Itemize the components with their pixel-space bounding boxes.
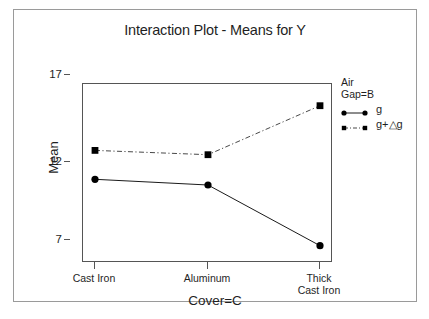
data-point-g-plus-delta-g-2 <box>317 102 324 109</box>
series-line-g <box>95 179 320 245</box>
y-tick-mark-17 <box>64 74 70 75</box>
y-tick-label-17: 17 <box>28 68 62 80</box>
plot-area <box>82 83 332 262</box>
series-line-g-plus-delta-g <box>95 106 320 155</box>
legend-item-g[interactable]: g <box>341 103 429 115</box>
x-tick-label-cast-iron-line1: Cast Iron <box>39 272 149 284</box>
figure-frame: Interaction Plot - Means for Y Mean 17 1… <box>13 9 417 302</box>
legend: Air Gap=B g g+△g <box>341 76 429 130</box>
x-tick-label-aluminum-line1: Aluminum <box>152 272 262 284</box>
page-title: Interaction Plot - Means for Y <box>14 22 416 38</box>
x-tick-label-aluminum: Aluminum <box>152 272 262 284</box>
plot-series-svg <box>83 84 333 263</box>
legend-swatch-dashed-square-icon <box>341 119 371 129</box>
data-point-g-2 <box>316 242 323 249</box>
legend-label-g: g <box>376 103 382 115</box>
legend-title-line2: Gap=B <box>341 88 429 100</box>
data-point-g-plus-delta-g-1 <box>205 151 212 158</box>
x-tick-mark-aluminum <box>207 262 208 269</box>
legend-swatch-solid-circle-icon <box>341 104 371 114</box>
x-tick-label-cast-iron: Cast Iron <box>39 272 149 284</box>
legend-label-g-plus-delta-g: g+△g <box>376 118 403 131</box>
x-tick-mark-cast-iron <box>94 262 95 269</box>
x-axis-label: Cover=C <box>14 293 416 308</box>
y-tick-label-12: 12 <box>28 155 62 167</box>
x-tick-mark-thick-cast-iron <box>319 262 320 269</box>
data-point-g-plus-delta-g-0 <box>92 147 99 154</box>
legend-title-line1: Air <box>341 76 429 88</box>
data-point-g-0 <box>91 176 98 183</box>
y-tick-mark-7 <box>64 239 70 240</box>
legend-item-g-plus-delta-g[interactable]: g+△g <box>341 118 429 130</box>
x-tick-label-thick-cast-iron-line1: Thick <box>264 272 374 284</box>
y-tick-label-7: 7 <box>28 233 62 245</box>
y-tick-mark-12 <box>64 161 70 162</box>
data-point-g-1 <box>204 181 211 188</box>
